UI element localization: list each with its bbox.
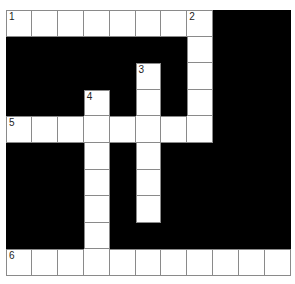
crossword-cell[interactable]: 6	[6, 249, 32, 276]
crossword-cell[interactable]	[84, 249, 110, 276]
blocked-cell	[265, 170, 291, 197]
crossword-cell[interactable]	[84, 223, 110, 250]
crossword-cell[interactable]	[58, 10, 84, 37]
blocked-cell	[239, 223, 265, 250]
clue-number: 1	[9, 12, 15, 22]
blocked-cell	[58, 223, 84, 250]
blocked-cell	[84, 37, 110, 64]
blocked-cell	[265, 63, 291, 90]
blocked-cell	[265, 223, 291, 250]
blocked-cell	[161, 90, 187, 117]
blocked-cell	[32, 170, 58, 197]
blocked-cell	[239, 116, 265, 143]
blocked-cell	[161, 63, 187, 90]
crossword-cell[interactable]	[84, 196, 110, 223]
clue-number: 4	[87, 92, 93, 102]
crossword-cell[interactable]	[84, 143, 110, 170]
blocked-cell	[213, 170, 239, 197]
clue-number: 5	[9, 118, 15, 128]
crossword-cell[interactable]	[110, 10, 136, 37]
crossword-cell[interactable]: 5	[6, 116, 32, 143]
crossword-cell[interactable]	[84, 116, 110, 143]
crossword-cell[interactable]	[213, 249, 239, 276]
blocked-cell	[110, 63, 136, 90]
crossword-cell[interactable]: 4	[84, 90, 110, 117]
blocked-cell	[84, 63, 110, 90]
blocked-cell	[32, 196, 58, 223]
crossword-cell[interactable]	[187, 90, 213, 117]
crossword-cell[interactable]	[136, 116, 162, 143]
blocked-cell	[32, 37, 58, 64]
blocked-cell	[110, 90, 136, 117]
clue-number: 2	[189, 12, 195, 22]
blocked-cell	[239, 63, 265, 90]
crossword-cell[interactable]	[32, 249, 58, 276]
crossword-cell[interactable]	[32, 10, 58, 37]
blocked-cell	[239, 170, 265, 197]
crossword-cell[interactable]	[187, 116, 213, 143]
blocked-cell	[239, 196, 265, 223]
blocked-cell	[161, 37, 187, 64]
blocked-cell	[213, 90, 239, 117]
blocked-cell	[58, 37, 84, 64]
blocked-cell	[265, 196, 291, 223]
blocked-cell	[213, 223, 239, 250]
blocked-cell	[239, 90, 265, 117]
blocked-cell	[213, 10, 239, 37]
crossword-cell[interactable]	[187, 37, 213, 64]
blocked-cell	[58, 63, 84, 90]
crossword-cell[interactable]	[58, 249, 84, 276]
crossword-cell[interactable]	[136, 170, 162, 197]
blocked-cell	[6, 63, 32, 90]
crossword-cell[interactable]: 3	[136, 63, 162, 90]
crossword-cell[interactable]	[239, 249, 265, 276]
crossword-cell[interactable]	[161, 116, 187, 143]
crossword-cell[interactable]	[58, 116, 84, 143]
blocked-cell	[213, 143, 239, 170]
blocked-cell	[6, 170, 32, 197]
clue-number: 6	[9, 251, 15, 261]
blocked-cell	[213, 37, 239, 64]
crossword-cell[interactable]	[161, 249, 187, 276]
crossword-cell[interactable]	[136, 196, 162, 223]
blocked-cell	[239, 10, 265, 37]
crossword-cell[interactable]	[110, 249, 136, 276]
crossword-cell[interactable]: 1	[6, 10, 32, 37]
blocked-cell	[32, 143, 58, 170]
blocked-cell	[58, 90, 84, 117]
blocked-cell	[187, 170, 213, 197]
blocked-cell	[265, 90, 291, 117]
crossword-cell[interactable]	[136, 249, 162, 276]
blocked-cell	[136, 37, 162, 64]
blocked-cell	[161, 170, 187, 197]
crossword-cell[interactable]: 2	[187, 10, 213, 37]
crossword-cell[interactable]	[187, 249, 213, 276]
crossword-cell[interactable]	[187, 63, 213, 90]
crossword-cell[interactable]	[84, 170, 110, 197]
blocked-cell	[110, 223, 136, 250]
blocked-cell	[187, 196, 213, 223]
blocked-cell	[110, 37, 136, 64]
blocked-cell	[136, 223, 162, 250]
blocked-cell	[239, 143, 265, 170]
blocked-cell	[6, 90, 32, 117]
blocked-cell	[110, 196, 136, 223]
blocked-cell	[58, 143, 84, 170]
blocked-cell	[213, 196, 239, 223]
crossword-cell[interactable]	[136, 10, 162, 37]
crossword-cell[interactable]	[136, 143, 162, 170]
blocked-cell	[187, 143, 213, 170]
blocked-cell	[6, 37, 32, 64]
blocked-cell	[6, 223, 32, 250]
crossword-cell[interactable]	[84, 10, 110, 37]
blocked-cell	[265, 143, 291, 170]
crossword-cell[interactable]	[136, 90, 162, 117]
blocked-cell	[110, 143, 136, 170]
blocked-cell	[187, 223, 213, 250]
crossword-cell[interactable]	[32, 116, 58, 143]
crossword-cell[interactable]	[265, 249, 291, 276]
blocked-cell	[213, 63, 239, 90]
blocked-cell	[265, 37, 291, 64]
crossword-cell[interactable]	[110, 116, 136, 143]
crossword-cell[interactable]	[161, 10, 187, 37]
